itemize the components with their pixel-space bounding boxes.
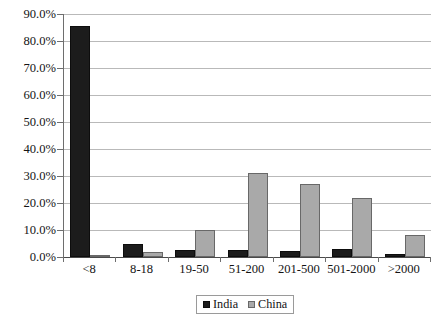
bar-group [123,14,163,257]
bar-china-0 [90,255,110,257]
legend-entry-india[interactable]: India [203,298,238,310]
y-axis-tick-label: 30.0% [0,170,56,183]
y-axis-tick-label: 40.0% [0,143,56,156]
y-axis-tick-label: 10.0% [0,224,56,237]
y-axis-tick-label: 60.0% [0,89,56,102]
x-axis-tick-mark [325,257,326,262]
x-axis-tick-mark [378,257,379,262]
bar-china-5 [352,198,372,257]
x-axis-category-label: 201-500 [273,263,325,277]
legend-swatch-icon [248,301,255,308]
x-axis-category-label: 51-200 [220,263,272,277]
x-axis-category-label: 501-2000 [325,263,377,277]
x-axis-category-label: 8-18 [115,263,167,277]
bar-group [175,14,215,257]
y-axis-tick-label: 70.0% [0,62,56,75]
bar-china-3 [248,173,268,257]
bar-india-4 [280,251,300,257]
bar-group [385,14,425,257]
legend-label: India [213,298,238,310]
bar-india-1 [123,244,143,258]
bar-india-6 [385,254,405,257]
bar-group [280,14,320,257]
x-axis-tick-mark [115,257,116,262]
x-axis-category-label: >2000 [378,263,430,277]
y-axis-tick-label: 90.0% [0,8,56,21]
bar-group [332,14,372,257]
legend-label: China [258,298,287,310]
bar-group [70,14,110,257]
x-axis-tick-mark [273,257,274,262]
bar-india-5 [332,249,352,257]
bar-china-6 [405,235,425,257]
x-axis-category-label: <8 [63,263,115,277]
bar-chart: 0.0%10.0%20.0%30.0%40.0%50.0%60.0%70.0%8… [0,0,447,319]
y-axis-tick-label: 20.0% [0,197,56,210]
legend-entry-china[interactable]: China [248,298,287,310]
x-axis-tick-mark [63,257,64,262]
y-axis-tick-label: 80.0% [0,35,56,48]
bar-india-3 [228,250,248,257]
legend-swatch-icon [203,301,210,308]
bar-china-2 [195,230,215,257]
y-axis-tick-label: 0.0% [0,251,56,264]
x-axis-tick-mark [220,257,221,262]
bar-group [228,14,268,257]
plot-area [63,14,431,258]
y-axis-tick-label: 50.0% [0,116,56,129]
chart-legend: IndiaChina [196,295,294,314]
x-axis-tick-mark [430,257,431,262]
x-axis-tick-mark [168,257,169,262]
x-axis-category-label: 19-50 [168,263,220,277]
bar-india-0 [70,26,90,257]
bar-india-2 [175,250,195,257]
bar-china-4 [300,184,320,257]
bar-china-1 [143,252,163,257]
